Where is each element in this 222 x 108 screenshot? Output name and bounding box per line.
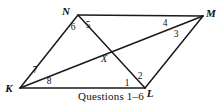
angle-label-8: 8 — [47, 76, 52, 86]
vertex-label-N: N — [61, 5, 71, 17]
intersection-label-X: X — [100, 53, 108, 64]
angle-label-4: 4 — [163, 18, 168, 28]
angle-label-5: 5 — [86, 20, 91, 30]
angle-label-6: 6 — [71, 22, 76, 32]
angle-label-3: 3 — [174, 29, 179, 39]
vertex-label-M: M — [205, 7, 217, 19]
figure-screenshot: N M K L X 1 2 3 4 5 6 7 8 Questions 1–6 — [0, 0, 222, 108]
segment-NM — [78, 15, 203, 16]
figure-caption: Questions 1–6 — [0, 90, 222, 102]
angle-label-7: 7 — [33, 65, 38, 75]
angle-label-1: 1 — [125, 78, 130, 88]
angle-label-2: 2 — [138, 71, 143, 81]
